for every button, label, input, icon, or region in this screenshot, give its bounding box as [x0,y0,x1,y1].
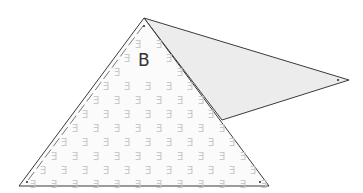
pattern-glyph: Ǝ [61,166,67,176]
pattern-glyph: Ǝ [240,152,246,162]
pattern-glyph: Ǝ [156,96,162,106]
pattern-glyph: Ǝ [51,180,57,190]
pattern-glyph: Ǝ [145,166,151,176]
pattern-glyph: Ǝ [177,68,183,78]
pattern-glyph: Ǝ [156,40,162,50]
pattern-glyph: Ǝ [156,180,162,190]
pattern-glyph: Ǝ [198,96,204,106]
pattern-glyph: Ǝ [135,180,141,190]
pattern-glyph: Ǝ [103,82,109,92]
vertex-dot-bottom-left [26,181,28,183]
pattern-glyph: Ǝ [135,96,141,106]
pattern-glyph: Ǝ [124,138,130,148]
pattern-glyph: Ǝ [72,152,78,162]
pattern-glyph: Ǝ [156,124,162,134]
pattern-glyph: Ǝ [208,166,214,176]
pattern-glyph: Ǝ [124,82,130,92]
pattern-glyph: Ǝ [229,166,235,176]
vertex-dot-top [143,25,145,27]
pattern-glyph: Ǝ [114,68,120,78]
pattern-glyph: Ǝ [177,180,183,190]
pattern-glyph: Ǝ [103,138,109,148]
pattern-glyph: Ǝ [156,152,162,162]
pattern-glyph: Ǝ [198,180,204,190]
pattern-glyph: Ǝ [135,152,141,162]
pattern-glyph: Ǝ [93,180,99,190]
pattern-glyph: Ǝ [166,166,172,176]
pattern-glyph: Ǝ [114,152,120,162]
pattern-glyph: Ǝ [82,166,88,176]
pattern-glyph: Ǝ [166,54,172,64]
pattern-glyph: Ǝ [114,180,120,190]
pattern-glyph: Ǝ [135,40,141,50]
pattern-glyph: Ǝ [145,138,151,148]
pattern-glyph: Ǝ [229,138,235,148]
pattern-glyph: Ǝ [250,166,256,176]
pattern-glyph: Ǝ [124,166,130,176]
pattern-glyph: Ǝ [145,110,151,120]
pattern-glyph: Ǝ [82,138,88,148]
pattern-glyph: Ǝ [103,166,109,176]
pattern-glyph: Ǝ [30,180,36,190]
pattern-glyph: Ǝ [187,82,193,92]
vertex-dot-flap-tip [337,79,339,81]
pattern-glyph: Ǝ [93,124,99,134]
pattern-glyph: Ǝ [82,110,88,120]
pattern-glyph: Ǝ [103,110,109,120]
pattern-glyph: Ǝ [166,138,172,148]
triangle-label: B [138,50,150,70]
pattern-glyph: Ǝ [177,152,183,162]
pattern-glyph: Ǝ [93,152,99,162]
pattern-glyph: Ǝ [208,138,214,148]
pattern-glyph: Ǝ [177,124,183,134]
pattern-glyph: Ǝ [124,54,130,64]
pattern-glyph: Ǝ [114,96,120,106]
pattern-glyph: Ǝ [145,82,151,92]
pattern-glyph: Ǝ [219,180,225,190]
pattern-glyph: Ǝ [166,110,172,120]
pattern-glyph: Ǝ [135,124,141,134]
pattern-glyph: Ǝ [114,124,120,134]
pattern-glyph: Ǝ [219,152,225,162]
pattern-glyph: Ǝ [187,110,193,120]
pattern-glyph: Ǝ [51,152,57,162]
pattern-glyph: Ǝ [208,110,214,120]
pattern-glyph: Ǝ [166,82,172,92]
pattern-glyph: Ǝ [240,180,246,190]
pattern-glyph: Ǝ [61,138,67,148]
pattern-glyph: Ǝ [124,110,130,120]
pattern-glyph: Ǝ [261,180,267,190]
pattern-glyph: Ǝ [93,96,99,106]
pattern-glyph: Ǝ [177,96,183,106]
pattern-glyph: Ǝ [72,180,78,190]
pattern-glyph: Ǝ [198,152,204,162]
pattern-glyph: Ǝ [219,124,225,134]
pattern-glyph: Ǝ [72,124,78,134]
pattern-glyph: Ǝ [187,138,193,148]
pattern-glyph: Ǝ [40,166,46,176]
pattern-glyph: Ǝ [187,166,193,176]
pattern-glyph: Ǝ [198,124,204,134]
